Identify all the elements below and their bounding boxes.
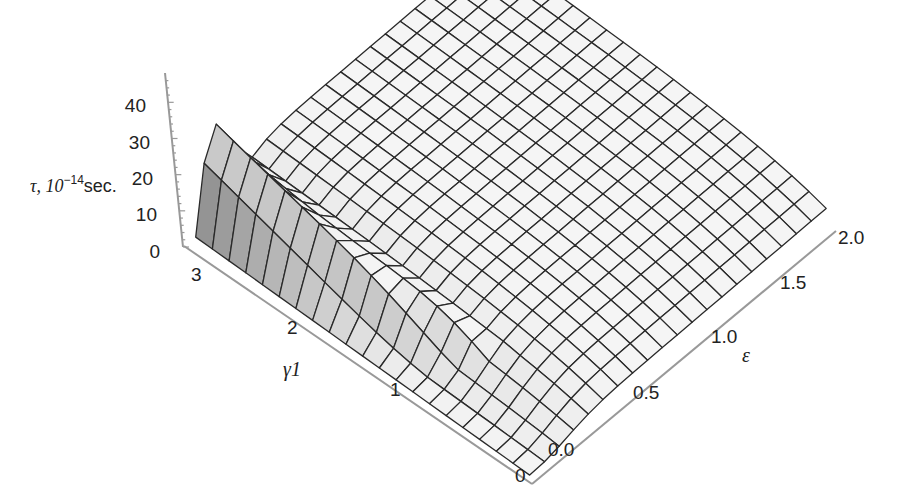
z-axis-ticks: 0 10 20 30 40: [125, 95, 160, 262]
y-tick-2.0: 2.0: [838, 227, 864, 248]
z-tick-30: 30: [129, 132, 150, 153]
x-axis-label: γ1: [283, 358, 301, 381]
z-tick-40: 40: [125, 95, 146, 116]
z-label-unit: sec.: [84, 176, 117, 196]
z-label-exp: −14: [63, 173, 84, 187]
surface-mesh: [196, 0, 827, 475]
x-tick-3: 3: [191, 264, 202, 285]
z-tick-0: 0: [149, 241, 160, 262]
x-tick-2: 2: [287, 317, 298, 338]
z-tick-20: 20: [132, 168, 153, 189]
y-tick-1.0: 1.0: [711, 326, 737, 347]
x-tick-1: 1: [390, 379, 401, 400]
y-tick-1.5: 1.5: [780, 272, 806, 293]
y-tick-0.5: 0.5: [633, 382, 659, 403]
z-tick-10: 10: [136, 204, 157, 225]
surface-plot: 0 10 20 30 40 τ, 10−14sec. 0 1 2 3 γ1 0.…: [0, 0, 902, 486]
z-axis-label: τ, 10−14sec.: [30, 173, 117, 196]
y-axis-label: ε: [742, 344, 750, 366]
svg-text:τ, 10−14sec.: τ, 10−14sec.: [30, 173, 117, 196]
z-label-symbol: τ, 10: [30, 176, 63, 196]
x-tick-0: 0: [515, 465, 526, 486]
y-tick-0.0: 0.0: [548, 439, 574, 460]
